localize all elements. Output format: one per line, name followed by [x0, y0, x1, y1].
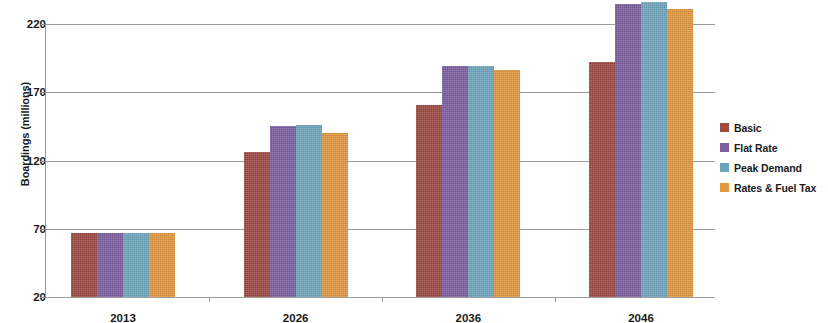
x-axis-tick-label: 2036 [456, 312, 482, 323]
bar [589, 62, 615, 297]
bar [667, 9, 693, 297]
y-axis-tick-mark [40, 297, 46, 298]
y-axis-tick-mark [40, 92, 46, 93]
legend: BasicFlat RatePeak DemandRates & Fuel Ta… [720, 118, 828, 198]
gridline [45, 297, 715, 298]
y-axis-tick-labels: 2070120170220 [16, 0, 46, 323]
legend-item: Flat Rate [720, 138, 828, 157]
x-axis-tick-label: 2013 [110, 312, 136, 323]
legend-swatch-icon [720, 183, 729, 192]
legend-label: Rates & Fuel Tax [734, 182, 816, 194]
bar [468, 66, 494, 297]
bar [322, 133, 348, 297]
bar [416, 105, 442, 297]
bar [494, 70, 520, 297]
bar [97, 233, 123, 297]
bar-chart: Boardings (millions) 2070120170220 20132… [0, 0, 828, 323]
legend-label: Basic [734, 122, 762, 134]
legend-swatch-icon [720, 143, 729, 152]
legend-swatch-icon [720, 123, 729, 132]
bar [149, 233, 175, 297]
x-axis-tick-labels: 2013202620362046 [61, 300, 711, 322]
bar [296, 125, 322, 297]
plot-area [61, 10, 711, 297]
bar [270, 126, 296, 297]
y-axis-tick-mark [40, 24, 46, 25]
legend-label: Flat Rate [734, 142, 777, 154]
x-axis-tick-label: 2046 [628, 312, 654, 323]
legend-item: Peak Demand [720, 158, 828, 177]
x-axis-tick-label: 2026 [283, 312, 309, 323]
y-axis-tick-mark [40, 161, 46, 162]
bar [244, 152, 270, 297]
bar [71, 233, 97, 297]
bar [442, 66, 468, 297]
bar [615, 4, 641, 297]
bar [641, 2, 667, 297]
legend-item: Basic [720, 118, 828, 137]
y-axis-tick-mark [40, 229, 46, 230]
legend-item: Rates & Fuel Tax [720, 178, 828, 197]
bar [123, 233, 149, 297]
legend-label: Peak Demand [734, 162, 802, 174]
legend-swatch-icon [720, 163, 729, 172]
